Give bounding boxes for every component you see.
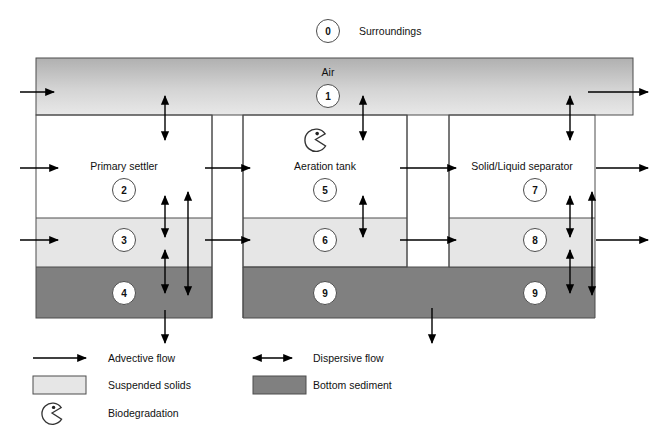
legend-label-biodegradation: Biodegradation — [108, 407, 179, 419]
unit-primary-settler: Primary settler 2 3 4 — [36, 115, 212, 318]
compartment-8-suspended-solids-fill — [449, 218, 595, 267]
figure-canvas: 0 Surroundings Air 1 Primary settler 2 3… — [0, 0, 667, 431]
compartment-9-number: 9 — [322, 288, 328, 299]
legend-label-advective: Advective flow — [108, 352, 176, 364]
compartment-0-number: 0 — [325, 26, 331, 37]
compartment-9b-number: 9 — [532, 288, 538, 299]
surroundings-label: Surroundings — [359, 25, 421, 37]
legend-label-bottom-sediment: Bottom sediment — [313, 379, 392, 391]
legend-light-gray-swatch-icon — [33, 376, 86, 394]
channel-settler-to-aeration — [212, 115, 243, 318]
air-label: Air — [322, 66, 335, 78]
pacman-eye — [315, 132, 319, 136]
aeration-tank-label: Aeration tank — [294, 160, 357, 172]
compartment-5-number: 5 — [322, 185, 328, 196]
compartment-6-number: 6 — [322, 235, 328, 246]
compartment-1-air: Air 1 — [36, 58, 633, 115]
pacman-body — [305, 129, 326, 151]
compartment-0-surroundings: 0 Surroundings — [317, 20, 422, 43]
compartment-3-number: 3 — [121, 235, 127, 246]
biodegradation-icon — [305, 129, 326, 151]
compartment-2-number: 2 — [121, 185, 127, 196]
legend-pacman-eye — [52, 406, 55, 409]
legend-pacman-body — [42, 403, 62, 424]
separator-label: Solid/Liquid separator — [471, 160, 573, 172]
legend-pacman-icon — [42, 403, 62, 424]
legend-label-dispersive: Dispersive flow — [313, 352, 384, 364]
legend-dark-gray-swatch-icon — [253, 376, 306, 394]
compartment-4-number: 4 — [121, 288, 127, 299]
legend-label-suspended-solids: Suspended solids — [108, 379, 191, 391]
wastewater-compartment-diagram: 0 Surroundings Air 1 Primary settler 2 3… — [0, 0, 667, 431]
legend: Advective flow Dispersive flow Suspended… — [33, 352, 392, 424]
compartment-1-number: 1 — [325, 91, 331, 102]
compartment-8-number: 8 — [532, 235, 538, 246]
compartment-7-number: 7 — [532, 185, 538, 196]
channel-aeration-to-separator — [407, 115, 449, 267]
primary-settler-label: Primary settler — [90, 160, 158, 172]
